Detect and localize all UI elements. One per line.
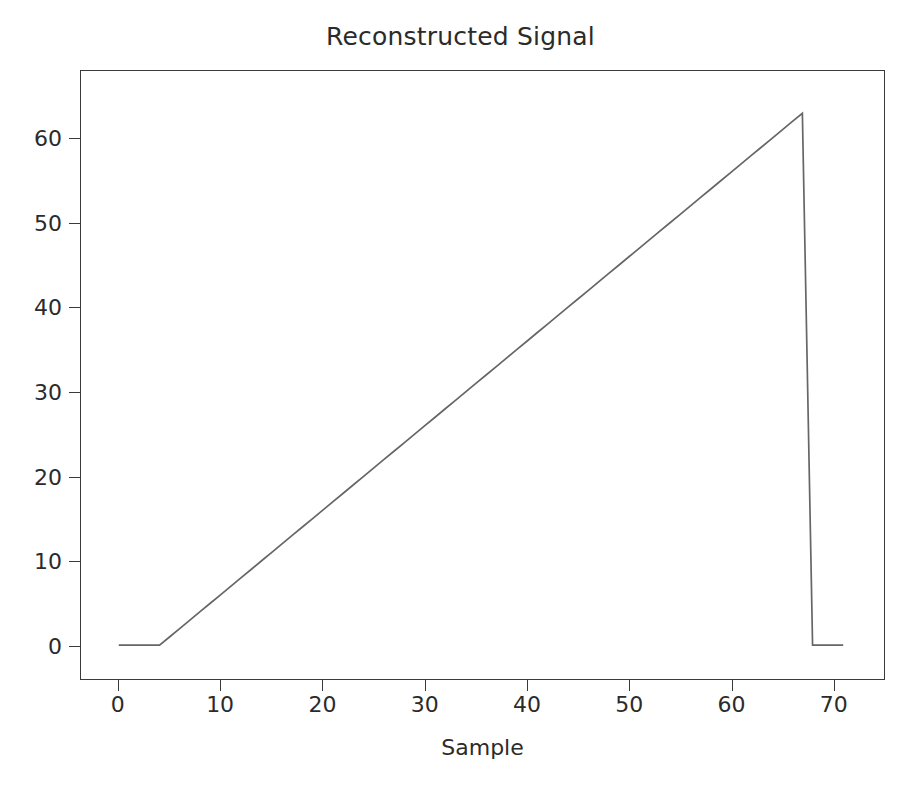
chart-title: Reconstructed Signal — [0, 22, 921, 51]
y-tick-label: 20 — [34, 464, 62, 489]
y-tick-label: 50 — [34, 210, 62, 235]
x-axis-label: Sample — [80, 735, 885, 760]
y-tick-mark — [69, 561, 80, 562]
chart-figure: Reconstructed Signal 0102030405060 01020… — [0, 0, 921, 793]
x-tick-label: 0 — [111, 692, 125, 717]
y-tick-label: 0 — [48, 634, 62, 659]
y-tick-mark — [69, 223, 80, 224]
x-tick-label: 70 — [820, 692, 848, 717]
y-tick-mark — [69, 138, 80, 139]
x-tick-mark — [834, 680, 835, 691]
y-tick-label: 60 — [34, 125, 62, 150]
x-tick-mark — [732, 680, 733, 691]
x-tick-mark — [629, 680, 630, 691]
y-tick-mark — [69, 477, 80, 478]
signal-line-plot — [81, 71, 884, 679]
x-tick-label: 20 — [308, 692, 336, 717]
y-tick-label: 10 — [34, 549, 62, 574]
y-axis-tick-labels: 0102030405060 — [0, 0, 62, 793]
y-tick-mark — [69, 392, 80, 393]
x-tick-label: 50 — [615, 692, 643, 717]
x-tick-label: 40 — [513, 692, 541, 717]
x-tick-label: 60 — [718, 692, 746, 717]
x-tick-mark — [425, 680, 426, 691]
x-tick-mark — [118, 680, 119, 691]
x-tick-label: 30 — [411, 692, 439, 717]
x-tick-mark — [322, 680, 323, 691]
reconstructed-signal-line — [119, 113, 843, 645]
y-tick-label: 40 — [34, 295, 62, 320]
y-tick-label: 30 — [34, 379, 62, 404]
x-tick-label: 10 — [206, 692, 234, 717]
plot-area — [80, 70, 885, 680]
x-tick-mark — [220, 680, 221, 691]
y-tick-mark — [69, 646, 80, 647]
x-tick-mark — [527, 680, 528, 691]
y-tick-mark — [69, 307, 80, 308]
